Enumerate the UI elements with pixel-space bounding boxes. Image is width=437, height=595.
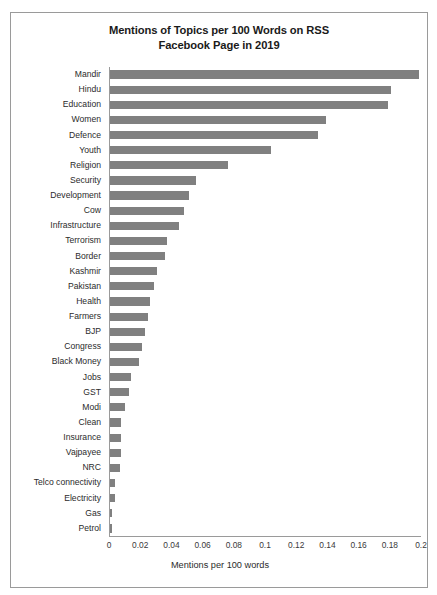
category-label-row: Women (13, 112, 105, 127)
table-row (109, 385, 421, 400)
category-label: Kashmir (69, 264, 101, 279)
bar (109, 403, 125, 411)
category-label-row: Cow (13, 203, 105, 218)
category-label-row: Health (13, 294, 105, 309)
x-tick-label: 0.12 (288, 540, 304, 550)
table-row (109, 188, 421, 203)
x-axis-title: Mentions per 100 words (11, 560, 429, 570)
bar (109, 252, 165, 260)
x-tick-label: 0.04 (163, 540, 179, 550)
table-row (109, 218, 421, 233)
category-label-row: Electricity (13, 491, 105, 506)
category-label: Electricity (64, 491, 101, 506)
bar (109, 373, 131, 381)
category-label: Modi (82, 400, 101, 415)
bar (109, 191, 189, 199)
bar-series (109, 67, 421, 536)
category-label-row: Kashmir (13, 264, 105, 279)
table-row (109, 279, 421, 294)
bar (109, 464, 120, 472)
table-row (109, 309, 421, 324)
x-axis-tick-labels: 00.020.040.060.080.10.120.140.160.180.2 (109, 540, 421, 554)
bar (109, 222, 179, 230)
chart-frame: Mentions of Topics per 100 Words on RSS … (10, 12, 428, 588)
table-row (109, 97, 421, 112)
category-label-row: Security (13, 173, 105, 188)
category-label: Gas (85, 506, 101, 521)
bar (109, 282, 154, 290)
table-row (109, 370, 421, 385)
category-label: BJP (85, 324, 101, 339)
category-label: Education (63, 97, 101, 112)
category-label-row: Vajpayee (13, 445, 105, 460)
bar (109, 176, 196, 184)
bar (109, 131, 318, 139)
bar (109, 101, 388, 109)
category-label: Petrol (79, 521, 101, 536)
category-label-row: Clean (13, 415, 105, 430)
table-row (109, 67, 421, 82)
category-label: Congress (64, 339, 101, 354)
table-row (109, 354, 421, 369)
table-row (109, 143, 421, 158)
bar (109, 328, 145, 336)
category-label-row: Education (13, 97, 105, 112)
category-label: Religion (70, 158, 101, 173)
x-tick-label: 0.08 (226, 540, 242, 550)
category-label: Telco connectivity (34, 475, 101, 490)
y-axis-line (109, 67, 110, 537)
category-label: Black Money (52, 354, 101, 369)
category-label-row: Hindu (13, 82, 105, 97)
table-row (109, 158, 421, 173)
category-label-row: Gas (13, 506, 105, 521)
x-tick-label: 0 (107, 540, 112, 550)
bar (109, 70, 419, 78)
plot-area: MandirHinduEducationWomenDefenceYouthRel… (11, 13, 429, 589)
bar (109, 86, 391, 94)
bar (109, 358, 139, 366)
category-label-row: NRC (13, 460, 105, 475)
bar (109, 418, 121, 426)
x-tick-label: 0.02 (132, 540, 148, 550)
category-label: Development (50, 188, 101, 203)
table-row (109, 128, 421, 143)
x-tick-label: 0.1 (259, 540, 271, 550)
table-row (109, 445, 421, 460)
table-row (109, 400, 421, 415)
bar (109, 237, 167, 245)
table-row (109, 460, 421, 475)
category-label-row: Modi (13, 400, 105, 415)
table-row (109, 173, 421, 188)
category-label: Mandir (75, 67, 101, 82)
category-label-row: Border (13, 249, 105, 264)
category-label: Women (72, 112, 101, 127)
category-label-row: Infrastructure (13, 218, 105, 233)
category-label: Pakistan (68, 279, 101, 294)
bar (109, 207, 184, 215)
table-row (109, 264, 421, 279)
category-axis-labels: MandirHinduEducationWomenDefenceYouthRel… (13, 67, 105, 536)
category-label-row: Development (13, 188, 105, 203)
table-row (109, 82, 421, 97)
table-row (109, 491, 421, 506)
category-label: Youth (79, 143, 101, 158)
x-tick-label: 0.06 (194, 540, 210, 550)
category-label-row: Terrorism (13, 233, 105, 248)
bar (109, 434, 121, 442)
table-row (109, 339, 421, 354)
x-tick-label: 0.18 (382, 540, 398, 550)
category-label-row: Congress (13, 339, 105, 354)
category-label: Terrorism (65, 233, 101, 248)
category-label-row: Petrol (13, 521, 105, 536)
category-label-row: Pakistan (13, 279, 105, 294)
category-label: GST (83, 385, 101, 400)
bar (109, 313, 148, 321)
table-row (109, 233, 421, 248)
bar (109, 449, 121, 457)
table-row (109, 249, 421, 264)
category-label: Cow (84, 203, 101, 218)
category-label: Farmers (69, 309, 101, 324)
category-label: Jobs (83, 370, 101, 385)
bar (109, 161, 228, 169)
bar (109, 388, 129, 396)
